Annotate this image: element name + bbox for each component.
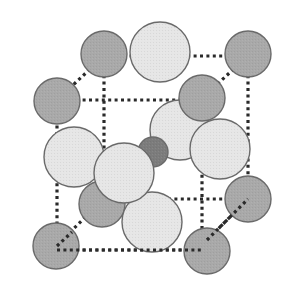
dark-atom-sphere [225,31,271,77]
crystal-unit-cell-diagram [0,0,293,291]
light-atom-sphere [94,143,154,203]
dark-atom-sphere [34,78,80,124]
dark-atom-sphere [179,75,225,121]
dark-atom-sphere [184,228,230,274]
light-atom-sphere [190,119,250,179]
dark-atom-sphere [33,223,79,269]
unit-cell-canvas [0,0,293,291]
light-atom-sphere [130,22,190,82]
dark-atom-sphere [81,31,127,77]
